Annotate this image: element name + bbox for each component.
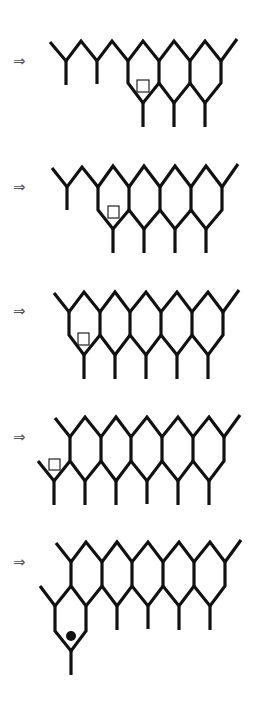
lattice-step-2	[52, 164, 238, 253]
lattice-step-3	[54, 290, 239, 379]
honeycomb-growth-diagram	[0, 0, 264, 715]
lattice-step-5	[40, 540, 241, 675]
lattice-step-1	[50, 39, 237, 127]
new-cell-dot-marker	[66, 631, 76, 641]
lattice-step-4	[38, 415, 240, 505]
insertion-marker-square	[137, 80, 149, 92]
insertion-marker-square	[78, 333, 89, 345]
insertion-marker-square	[49, 459, 60, 470]
insertion-marker-square	[108, 206, 119, 218]
